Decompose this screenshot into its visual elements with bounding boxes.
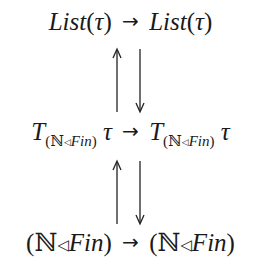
vertical-arrows — [0, 0, 261, 267]
down-arrow-icon — [136, 49, 144, 112]
up-arrow-icon — [113, 161, 121, 224]
up-arrow-icon — [113, 49, 121, 112]
down-arrow-icon — [136, 161, 144, 224]
